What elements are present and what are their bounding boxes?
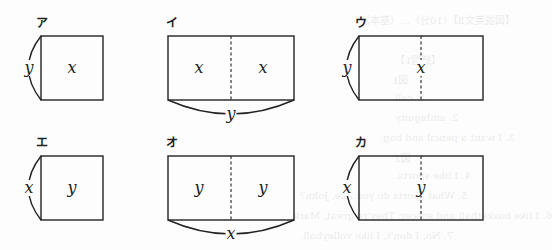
inside-var-e: y	[67, 180, 76, 196]
box-o	[168, 156, 294, 220]
side-var-u: y	[341, 60, 352, 76]
panel-label-a: ア	[36, 17, 48, 29]
panel-label-u: ウ	[355, 17, 367, 29]
inside-var-i-left: x	[194, 60, 203, 76]
side-var-i: y	[225, 106, 236, 122]
panel-label-ka: カ	[355, 137, 367, 149]
panel-label-e: エ	[36, 137, 48, 149]
inside-var-u: x	[415, 60, 426, 76]
inside-var-a: x	[67, 60, 76, 76]
side-var-e: x	[23, 180, 34, 196]
inside-var-o-right: y	[258, 180, 267, 196]
panel-label-i: イ	[166, 17, 178, 29]
inside-var-ka: y	[415, 180, 426, 196]
side-var-a: y	[23, 60, 34, 76]
side-var-o: x	[225, 226, 236, 242]
box-i	[168, 36, 294, 100]
panel-label-o: オ	[166, 137, 178, 149]
side-var-ka: x	[341, 180, 352, 196]
inside-var-o-left: y	[194, 180, 203, 196]
inside-var-i-right: x	[258, 60, 267, 76]
